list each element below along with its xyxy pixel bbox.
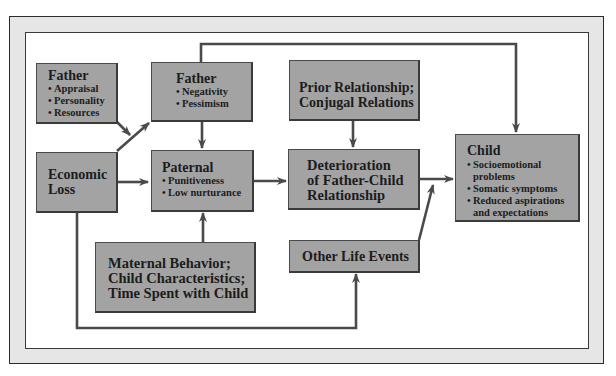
list-item: •Low nurturance <box>162 187 252 199</box>
list-item: •Punitiveness <box>162 175 252 187</box>
list-item: •Pessimism <box>176 98 251 110</box>
node-title: Child <box>467 143 578 158</box>
node-father-factors: Father •Appraisal •Personality •Resource… <box>36 63 118 124</box>
bullet-list: •Negativity •Pessimism <box>176 86 251 110</box>
node-line: Maternal Behavior; <box>108 256 254 271</box>
bullet-list: •Appraisal •Personality •Resources <box>48 83 116 119</box>
node-prior-relationship: Prior Relationship; Conjugal Relations <box>289 60 420 121</box>
node-line: Economic <box>48 167 116 182</box>
node-father-attitudes: Father •Negativity •Pessimism <box>151 62 253 122</box>
list-item: •Socioemotional <box>467 159 578 171</box>
node-line: Time Spent with Child <box>108 286 254 301</box>
node-other-life-events: Other Life Events <box>289 240 420 273</box>
list-item: •Reduced aspirations <box>467 195 578 207</box>
node-line: Conjugal Relations <box>299 95 418 110</box>
list-item-continuation: and expectations <box>467 207 578 219</box>
list-item: •Appraisal <box>48 83 116 95</box>
list-item: •Negativity <box>176 86 251 98</box>
list-item-continuation: problems <box>467 171 578 183</box>
arrow-father-factors-to-junction <box>117 122 130 135</box>
list-item: •Personality <box>48 95 116 107</box>
bullet-list: •Socioemotional problems •Somatic sympto… <box>467 159 578 219</box>
node-line: Loss <box>48 182 116 197</box>
list-item: •Resources <box>48 107 116 119</box>
node-line: Prior Relationship; <box>299 80 418 95</box>
node-economic-loss: Economic Loss <box>36 152 118 213</box>
node-title: Father <box>48 68 116 83</box>
node-title: Father <box>176 71 251 86</box>
node-line: Relationship <box>307 188 418 203</box>
bullet-list: •Punitiveness •Low nurturance <box>162 175 252 199</box>
arrow-other-to-child <box>419 185 433 240</box>
node-line: Child Characteristics; <box>108 271 254 286</box>
node-deterioration: Deterioration of Father-Child Relationsh… <box>288 149 420 210</box>
node-maternal: Maternal Behavior; Child Characteristics… <box>95 242 256 313</box>
node-title: Paternal <box>162 160 252 175</box>
node-line: Deterioration <box>307 158 418 173</box>
node-line: of Father-Child <box>307 173 418 188</box>
node-line: Other Life Events <box>302 249 418 264</box>
node-paternal: Paternal •Punitiveness •Low nurturance <box>151 150 254 212</box>
list-item: •Somatic symptoms <box>467 183 578 195</box>
node-child: Child •Socioemotional problems •Somatic … <box>455 134 580 222</box>
